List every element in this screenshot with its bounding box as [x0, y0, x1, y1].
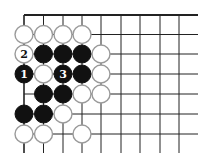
black-stone	[35, 85, 53, 103]
white-stone: 2	[15, 45, 33, 63]
white-stone	[73, 26, 91, 44]
move-number-label: 2	[20, 48, 28, 61]
white-stone	[92, 85, 110, 103]
black-stone	[35, 105, 53, 123]
white-stone	[35, 125, 53, 143]
black-stone	[54, 45, 72, 63]
black-stone	[73, 65, 91, 83]
white-stone	[15, 26, 33, 44]
black-stone: 1	[15, 65, 33, 83]
black-stone	[15, 105, 33, 123]
black-stone	[73, 45, 91, 63]
white-stone	[73, 125, 91, 143]
white-stone	[54, 26, 72, 44]
black-stone: 3	[54, 65, 72, 83]
black-stone	[54, 85, 72, 103]
white-stone	[15, 125, 33, 143]
move-number-label: 1	[20, 68, 28, 81]
white-stone	[35, 26, 53, 44]
go-board: 213	[0, 0, 210, 167]
black-stone	[35, 45, 53, 63]
white-stone	[73, 85, 91, 103]
white-stone	[92, 45, 110, 63]
white-stone	[54, 105, 72, 123]
move-number-label: 3	[59, 68, 67, 81]
white-stone	[92, 65, 110, 83]
white-stone	[35, 65, 53, 83]
